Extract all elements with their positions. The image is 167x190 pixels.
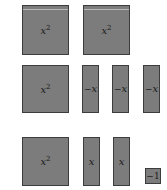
neg-unit-tile: −1: [145, 168, 161, 184]
tile-label: x2: [40, 25, 50, 36]
tile-label: −1: [146, 171, 159, 181]
tile-label: x2: [101, 25, 111, 36]
x-tile: x: [113, 137, 130, 186]
tile-label: x2: [40, 156, 50, 167]
neg-x-tile: −x: [82, 65, 99, 113]
tile-label: x: [119, 157, 125, 167]
neg-x-tile: −x: [112, 65, 129, 113]
x-tile: x: [83, 137, 100, 186]
x-squared-tile: x2: [22, 65, 69, 113]
tile-label: −x: [145, 84, 158, 94]
tile-label: −x: [114, 84, 127, 94]
x-squared-tile: x2: [22, 137, 69, 186]
tile-label: x2: [40, 84, 50, 95]
tile-label: −x: [84, 84, 97, 94]
neg-x-tile: −x: [143, 65, 160, 113]
tile-label: x: [89, 157, 95, 167]
x-squared-tile: x2: [22, 5, 69, 55]
x-squared-tile: x2: [83, 5, 130, 55]
